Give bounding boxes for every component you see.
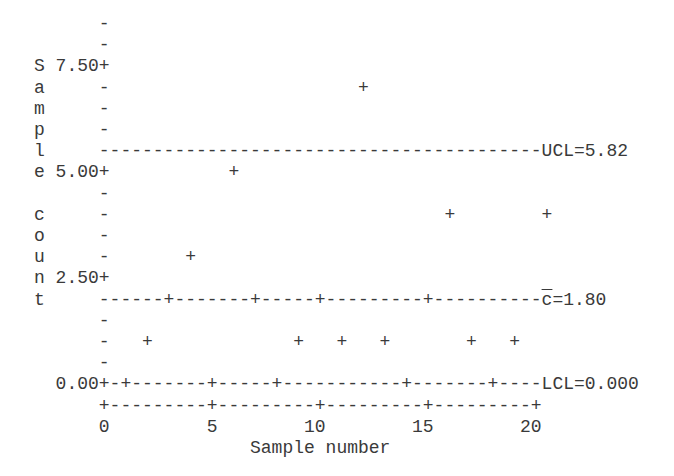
plot-char: - — [358, 141, 369, 162]
plot-char: t — [34, 290, 45, 311]
plot-char: 5 — [77, 268, 88, 289]
plot-char: + — [207, 396, 218, 417]
plot-char: - — [99, 311, 110, 332]
plot-char: - — [261, 141, 272, 162]
plot-char: b — [358, 438, 369, 459]
plot-char: 1 — [412, 417, 423, 438]
plot-char: - — [531, 374, 542, 395]
plot-char: - — [444, 141, 455, 162]
plot-char: 0 — [56, 374, 67, 395]
plot-char: - — [218, 290, 229, 311]
plot-char: C — [552, 374, 563, 395]
plot-char: - — [120, 290, 131, 311]
plot-char: - — [131, 374, 142, 395]
plot-char: - — [218, 374, 229, 395]
data-point: + — [120, 374, 131, 395]
plot-char: - — [509, 374, 520, 395]
plot-char: - — [531, 290, 542, 311]
plot-char: S — [250, 438, 261, 459]
plot-char: - — [196, 374, 207, 395]
plot-char: - — [142, 374, 153, 395]
plot-char: . — [596, 374, 607, 395]
plot-char: 8 — [606, 141, 617, 162]
plot-char: r — [380, 438, 391, 459]
plot-char: 0 — [77, 374, 88, 395]
plot-char: - — [164, 141, 175, 162]
plot-char: m — [34, 99, 45, 120]
plot-char: - — [120, 396, 131, 417]
plot-char: - — [99, 184, 110, 205]
plot-char: - — [185, 290, 196, 311]
plot-char: - — [401, 396, 412, 417]
plot-char: m — [347, 438, 358, 459]
plot-char: - — [239, 374, 250, 395]
data-point: + — [509, 332, 520, 353]
plot-char: - — [401, 141, 412, 162]
plot-char: - — [304, 374, 315, 395]
plot-char: - — [142, 290, 153, 311]
plot-char: o — [34, 226, 45, 247]
center-line-label: 0 — [596, 290, 607, 311]
plot-char: 0 — [88, 56, 99, 77]
data-point: + — [315, 290, 326, 311]
plot-char: - — [218, 396, 229, 417]
plot-char: - — [196, 290, 207, 311]
plot-char: - — [380, 374, 391, 395]
plot-char: 5 — [207, 417, 218, 438]
center-line-label: . — [574, 290, 585, 311]
plot-char: - — [326, 141, 337, 162]
plot-char: - — [369, 141, 380, 162]
plot-char: - — [326, 290, 337, 311]
plot-char: - — [261, 396, 272, 417]
plot-char: = — [574, 141, 585, 162]
plot-char: 2 — [56, 268, 67, 289]
plot-char: - — [110, 396, 121, 417]
plot-char: 0 — [88, 268, 99, 289]
plot-char: - — [347, 374, 358, 395]
plot-char: - — [444, 290, 455, 311]
plot-char: - — [293, 396, 304, 417]
plot-char: - — [336, 141, 347, 162]
plot-char: n — [326, 438, 337, 459]
plot-char: - — [120, 141, 131, 162]
plot-char: - — [466, 290, 477, 311]
plot-char: - — [509, 141, 520, 162]
center-line-label: 8 — [585, 290, 596, 311]
plot-char: C — [552, 141, 563, 162]
plot-char: . — [66, 374, 77, 395]
plot-char: - — [131, 396, 142, 417]
plot-char: - — [282, 141, 293, 162]
plot-char: - — [228, 141, 239, 162]
plot-char: - — [153, 374, 164, 395]
plot-char: - — [390, 396, 401, 417]
plot-char: 5 — [423, 417, 434, 438]
plot-char: p — [34, 120, 45, 141]
plot-char: - — [509, 290, 520, 311]
plot-char: - — [99, 99, 110, 120]
plot-char: - — [304, 290, 315, 311]
plot-char: - — [99, 120, 110, 141]
data-point: + — [358, 78, 369, 99]
plot-char: - — [99, 14, 110, 35]
plot-char: - — [380, 290, 391, 311]
plot-char: - — [444, 374, 455, 395]
plot-char: - — [174, 141, 185, 162]
plot-char: - — [520, 374, 531, 395]
c-control-chart: --S7.50+a-+m-p-l------------------------… — [0, 0, 674, 476]
plot-char: e — [304, 438, 315, 459]
plot-char: - — [498, 396, 509, 417]
plot-char: - — [293, 290, 304, 311]
plot-char: - — [261, 374, 272, 395]
plot-char: - — [315, 374, 326, 395]
plot-char: - — [142, 141, 153, 162]
plot-char: - — [185, 374, 196, 395]
plot-char: l — [293, 438, 304, 459]
plot-char: 0 — [606, 374, 617, 395]
plot-char: - — [196, 396, 207, 417]
plot-char: - — [380, 396, 391, 417]
plot-char: - — [185, 141, 196, 162]
plot-char: - — [498, 374, 509, 395]
center-line-label: 1 — [563, 290, 574, 311]
plot-char: - — [304, 396, 315, 417]
plot-char: - — [99, 290, 110, 311]
